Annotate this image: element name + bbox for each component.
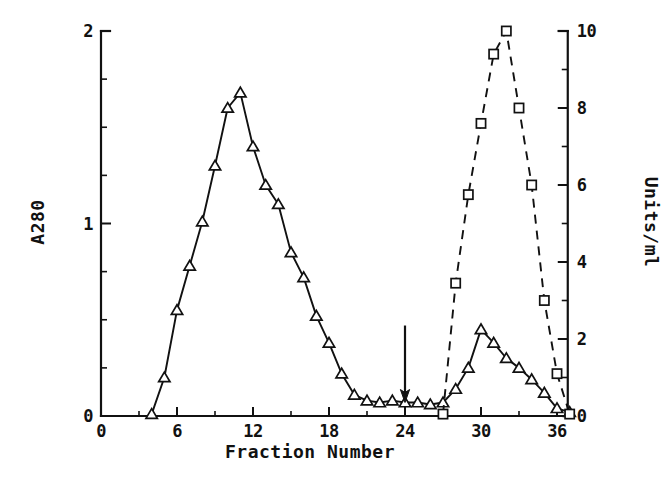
y2-axis-tick-labels: 0246810 <box>577 21 597 426</box>
data-point-marker <box>209 160 220 170</box>
y-axis-ticks <box>101 31 111 416</box>
y2-tick-label: 10 <box>577 21 597 41</box>
y-axis-tick-labels: 012 <box>83 21 93 426</box>
data-point-marker <box>146 409 157 419</box>
y-axis-title: A280 <box>27 199 48 244</box>
data-point-marker <box>489 50 498 59</box>
data-point-marker <box>184 260 195 270</box>
x-tick-label: 24 <box>395 421 415 441</box>
data-point-marker <box>451 279 460 288</box>
x-axis-title: Fraction Number <box>225 441 395 462</box>
y2-tick-label: 6 <box>577 175 587 195</box>
x-tick-label: 30 <box>471 421 491 441</box>
y-tick-label: 1 <box>83 214 93 234</box>
data-point-marker <box>463 362 474 372</box>
y2-tick-label: 2 <box>577 329 587 349</box>
x-axis-tick-labels: 061218243036 <box>96 421 567 441</box>
y2-axis-title: Units/ml <box>641 177 662 268</box>
data-point-marker <box>273 199 284 209</box>
data-point-marker <box>197 216 208 226</box>
data-point-marker <box>260 180 271 190</box>
x-tick-label: 6 <box>172 421 182 441</box>
annotation-layer <box>400 326 409 403</box>
data-point-marker <box>159 372 170 382</box>
data-point-marker <box>514 103 523 112</box>
data-point-marker <box>298 272 309 282</box>
data-point-marker <box>502 26 511 35</box>
x-axis-ticks <box>101 407 557 416</box>
data-point-marker <box>476 119 485 128</box>
data-series-layer <box>146 26 575 418</box>
y2-tick-label: 0 <box>577 406 587 426</box>
data-point-marker <box>247 141 258 151</box>
data-point-marker <box>438 409 447 418</box>
y2-axis-ticks <box>558 31 568 416</box>
data-point-marker <box>323 337 334 347</box>
data-point-marker <box>361 395 372 405</box>
chart-figure: 061218243036 012 0246810 Fraction Number… <box>0 0 669 477</box>
data-point-marker <box>349 389 360 399</box>
chromatography-plot: 061218243036 012 0246810 Fraction Number… <box>0 0 669 477</box>
data-point-marker <box>171 305 182 315</box>
series-a280 <box>146 87 575 418</box>
data-point-marker <box>540 296 549 305</box>
y2-tick-label: 8 <box>577 98 587 118</box>
data-point-marker <box>336 368 347 378</box>
y-tick-label: 2 <box>83 21 93 41</box>
data-point-marker <box>464 190 473 199</box>
data-point-marker <box>475 324 486 334</box>
data-point-marker <box>235 87 246 97</box>
data-point-marker <box>552 369 561 378</box>
x-tick-label: 18 <box>319 421 339 441</box>
x-tick-label: 0 <box>96 421 106 441</box>
data-point-marker <box>527 180 536 189</box>
y-tick-label: 0 <box>83 406 93 426</box>
data-point-marker <box>311 311 322 321</box>
data-point-marker <box>565 409 574 418</box>
data-point-marker <box>285 247 296 257</box>
x-tick-label: 36 <box>547 421 567 441</box>
series-line <box>152 93 570 414</box>
y2-tick-label: 4 <box>577 252 587 272</box>
data-point-marker <box>387 395 398 405</box>
x-tick-label: 12 <box>243 421 262 441</box>
down-arrow-marker <box>400 326 409 403</box>
data-point-marker <box>450 384 461 394</box>
